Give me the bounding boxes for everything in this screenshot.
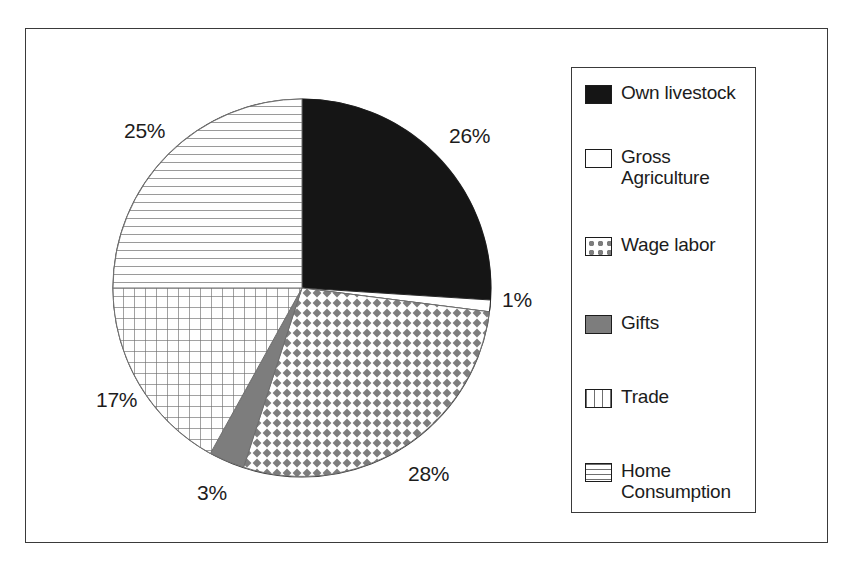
legend-swatch-gross-agriculture-icon [585, 149, 612, 168]
pie-label-own-livestock: 26% [449, 124, 490, 148]
pie-label-gifts: 3% [197, 481, 227, 505]
legend-item-gross-agriculture[interactable]: Gross Agriculture [572, 146, 755, 232]
legend-item-list: Own livestock Gross Agriculture Wage lab… [572, 68, 755, 512]
legend-swatch-trade-icon [585, 389, 612, 408]
legend-swatch-home-consumption-icon [585, 463, 612, 482]
pie-label-trade: 17% [96, 388, 137, 412]
pie-label-wage-labor: 28% [408, 462, 449, 486]
legend-item-wage-labor[interactable]: Wage labor [572, 234, 755, 310]
legend-label-wage-labor: Wage labor [621, 234, 715, 255]
pie-svg [112, 98, 492, 478]
pie-label-gross-agriculture: 1% [502, 288, 532, 312]
legend-item-home-consumption[interactable]: Home Consumption [572, 460, 755, 530]
pie-chart-figure: 26% 1% 28% 3% 17% 25% Own livestock Gros… [0, 0, 850, 565]
legend-swatch-wage-labor-icon [585, 237, 612, 256]
legend-label-home-consumption: Home Consumption [621, 460, 747, 503]
legend-item-gifts[interactable]: Gifts [572, 312, 755, 384]
chart-legend: Own livestock Gross Agriculture Wage lab… [571, 67, 756, 513]
legend-label-trade: Trade [621, 386, 669, 407]
legend-item-trade[interactable]: Trade [572, 386, 755, 458]
legend-swatch-gifts-icon [585, 315, 612, 334]
legend-label-gross-agriculture: Gross Agriculture [621, 146, 747, 189]
legend-label-gifts: Gifts [621, 312, 659, 333]
legend-label-own-livestock: Own livestock [621, 82, 736, 103]
legend-swatch-own-livestock-icon [585, 85, 612, 104]
legend-item-own-livestock[interactable]: Own livestock [572, 82, 755, 144]
pie-chart-plot-area [112, 98, 492, 478]
pie-label-home-consumption: 25% [124, 119, 165, 143]
